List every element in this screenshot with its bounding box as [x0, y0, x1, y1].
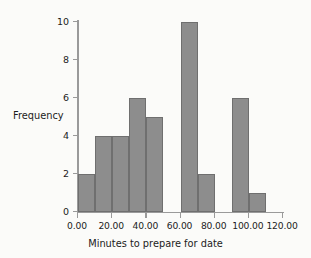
x-axis-tick-label: 20.00: [98, 220, 124, 231]
histogram-bar: [78, 174, 95, 212]
y-axis-title: Frequency: [13, 110, 64, 121]
x-axis-tick-label: 40.00: [133, 220, 159, 231]
y-axis-tick-label: 6: [63, 92, 69, 103]
histogram-bar: [249, 193, 266, 212]
x-axis-tick: [214, 213, 215, 218]
x-axis-tick-label: 0.00: [67, 220, 87, 231]
x-axis-ticks: 0.0020.0040.0060.0080.00100.00120.00: [77, 213, 284, 237]
histogram-bar: [146, 117, 163, 212]
histogram-bar: [95, 136, 112, 212]
histogram-chart: Frequency 0246810 0.0020.0040.0060.0080.…: [0, 0, 311, 258]
x-axis-tick-label: 60.00: [167, 220, 193, 231]
y-axis-tick: 8: [73, 59, 78, 60]
x-axis-tick: [111, 213, 112, 218]
x-axis-tick-label: 80.00: [201, 220, 227, 231]
x-axis-tick: [145, 213, 146, 218]
histogram-bar: [129, 98, 146, 212]
x-axis-title: Minutes to prepare for date: [0, 238, 311, 249]
plot-area: 0246810: [78, 22, 283, 212]
y-axis-tick-label: 2: [63, 168, 69, 179]
x-axis-tick: [77, 213, 78, 218]
x-axis-tick: [248, 213, 249, 218]
y-axis-tick: 6: [73, 97, 78, 98]
x-axis-tick-label: 120.00: [266, 220, 297, 231]
y-axis-tick-label: 8: [63, 54, 69, 65]
x-axis-tick: [180, 213, 181, 218]
y-axis-tick-label: 4: [63, 130, 69, 141]
y-axis-tick-label: 10: [57, 16, 69, 27]
histogram-bar: [112, 136, 129, 212]
y-axis-tick: 4: [73, 135, 78, 136]
histogram-bar: [232, 98, 249, 212]
y-axis-tick-label: 0: [63, 206, 69, 217]
x-axis-tick: [282, 213, 283, 218]
x-axis-tick-label: 100.00: [232, 220, 263, 231]
histogram-bar: [181, 22, 198, 212]
histogram-bar: [198, 174, 215, 212]
y-axis-tick: 10: [73, 21, 78, 22]
